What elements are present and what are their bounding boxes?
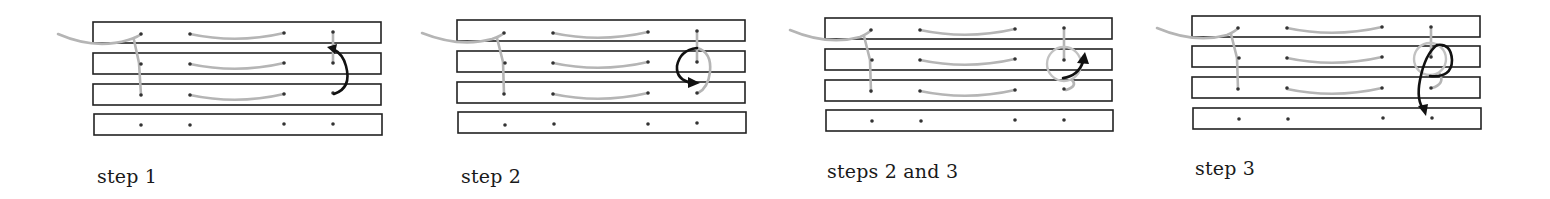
panel-step-3: step 3: [0, 0, 1550, 199]
step-3-diagram: [0, 0, 1550, 160]
holes: [1236, 25, 1434, 121]
panel-caption: step 3: [1195, 157, 1255, 179]
